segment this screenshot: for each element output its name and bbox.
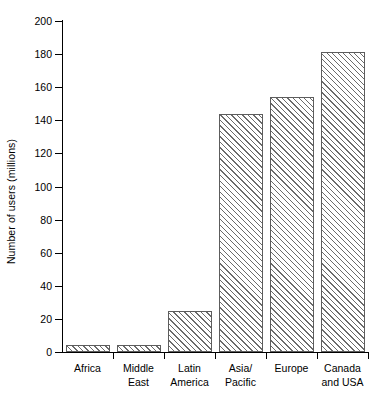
x-axis-label-line: Pacific	[215, 376, 266, 390]
x-axis-label-line: Latin	[164, 362, 215, 376]
x-tick-mark	[317, 352, 318, 359]
y-tick-mark	[55, 253, 62, 254]
y-tick-mark	[55, 286, 62, 287]
y-tick-mark	[55, 153, 62, 154]
x-axis-label: Asia/Pacific	[215, 362, 266, 389]
x-axis-label: MiddleEast	[113, 362, 164, 389]
y-tick-mark	[55, 21, 62, 22]
y-tick-mark	[55, 319, 62, 320]
y-tick-label: 40	[40, 280, 52, 292]
y-tick-mark	[55, 352, 62, 353]
x-axis-label-line: Middle	[113, 362, 164, 376]
bar	[321, 52, 365, 352]
bar	[117, 345, 161, 352]
y-tick-mark	[55, 120, 62, 121]
y-tick-label: 60	[40, 247, 52, 259]
y-tick-label: 0	[46, 346, 52, 358]
y-tick-mark	[55, 87, 62, 88]
y-tick-label: 80	[40, 214, 52, 226]
x-tick-mark	[164, 352, 165, 359]
y-tick-label: 100	[34, 181, 52, 193]
x-axis-label: Europe	[266, 362, 317, 376]
x-tick-mark	[266, 352, 267, 359]
bar	[66, 345, 110, 352]
x-axis-label: LatinAmerica	[164, 362, 215, 389]
y-tick-mark	[55, 220, 62, 221]
y-tick-label: 20	[40, 313, 52, 325]
x-axis-label-line: Europe	[266, 362, 317, 376]
y-tick-mark	[55, 54, 62, 55]
y-tick-label: 160	[34, 81, 52, 93]
y-tick-label: 120	[34, 147, 52, 159]
y-tick-label: 140	[34, 114, 52, 126]
x-tick-mark	[113, 352, 114, 359]
x-tick-mark	[215, 352, 216, 359]
bar	[270, 97, 314, 352]
y-axis-title: Number of users (millions)	[0, 0, 22, 403]
x-axis-label: Africa	[62, 362, 113, 376]
y-tick-mark	[55, 187, 62, 188]
x-axis-label-line: and USA	[317, 376, 368, 390]
x-axis-label-line: Asia/	[215, 362, 266, 376]
x-axis-label-line: America	[164, 376, 215, 390]
bar	[168, 311, 212, 352]
x-tick-mark	[368, 352, 369, 359]
bar-chart: Number of users (millions) 0204060801001…	[0, 0, 384, 403]
x-axis-label-line: Africa	[62, 362, 113, 376]
plot-area: 020406080100120140160180200	[62, 21, 368, 352]
bar	[219, 114, 263, 352]
y-tick-label: 180	[34, 48, 52, 60]
x-axis-label-line: Canada	[317, 362, 368, 376]
x-axis-label-line: East	[113, 376, 164, 390]
x-axis-label: Canadaand USA	[317, 362, 368, 389]
y-tick-label: 200	[34, 15, 52, 27]
